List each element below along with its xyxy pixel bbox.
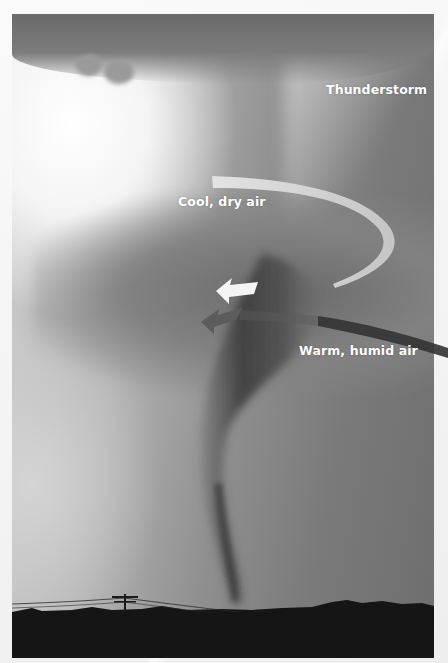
utility-poles-and-wires	[12, 14, 434, 658]
label-warm-humid-air: Warm, humid air	[299, 343, 418, 358]
dark-ground	[12, 612, 434, 658]
label-cool-dry-air: Cool, dry air	[178, 194, 266, 209]
label-thunderstorm: Thunderstorm	[326, 82, 427, 97]
tornado-photo	[12, 14, 434, 658]
